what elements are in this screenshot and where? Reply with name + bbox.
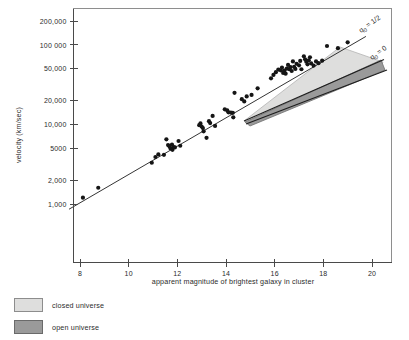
data-point [291,59,295,63]
data-point [256,86,260,90]
y-axis-ticks: 1,0002,000500010,00020,00050,000100 0002… [40,18,78,208]
hubble-diagram-figure: 1,0002,000500010,00020,00050,000100 0002… [0,0,409,340]
x-axis-tick-label: 12 [173,270,181,277]
x-axis-tick-label: 10 [125,270,133,277]
x-axis-tick-label: 18 [319,270,327,277]
y-axis-tick-label: 5000 [50,145,66,152]
data-point [316,61,320,65]
data-point [150,161,154,165]
data-point [269,76,273,80]
data-point [156,152,160,156]
data-point [305,62,309,66]
data-point [213,124,217,128]
model-bands [244,47,385,126]
data-point [232,91,236,95]
y-axis-tick-label: 50,000 [44,65,67,72]
data-point [208,121,212,125]
plot-frame [74,9,392,263]
y-axis-label: velocity (km/sec) [14,107,23,163]
data-point [298,59,302,63]
y-axis-tick-label: 200,000 [40,18,67,25]
legend-swatch-closed-universe [15,299,43,312]
x-axis-tick-label: 8 [78,270,82,277]
data-point [211,114,215,118]
legend-label-open-universe: open universe [52,323,99,332]
y-axis-tick-label: 100 000 [40,42,67,49]
closed-universe-band [244,47,383,124]
data-point [249,93,253,97]
data-point [231,115,235,119]
y-axis-tick-label: 20,000 [44,97,67,104]
data-point [325,44,329,48]
data-point [178,144,182,148]
svg-text:q0 = 0: q0 = 0 [368,44,388,62]
data-point [81,196,85,200]
y-axis-tick-label: 2,000 [48,177,67,184]
legend-label-closed-universe: closed universe [52,301,104,310]
data-point [164,137,168,141]
q0-zero-value: = 0 [374,44,388,57]
data-point [297,63,301,67]
data-point [346,40,350,44]
data-point [245,94,249,98]
legend: closed universe open universe [15,299,105,334]
y-axis-tick-label: 10,000 [44,121,67,128]
axes [74,9,392,263]
data-point [288,65,292,69]
data-point [176,139,180,143]
x-axis-tick-label: 14 [222,270,230,277]
data-point [293,67,297,71]
q0-half-annotation: q0 = 1/2 [357,14,382,36]
x-axis-tick-label: 16 [271,270,279,277]
data-point [242,99,246,103]
data-point [173,145,177,149]
y-axis-tick-label: 1,000 [48,201,67,208]
data-point [162,153,166,157]
data-point [320,59,324,63]
data-point [231,111,235,115]
data-point [96,186,100,190]
x-axis-tick-label: 20 [368,270,376,277]
data-point [299,67,303,71]
data-point [204,136,208,140]
data-point [284,72,288,76]
data-point [290,69,294,73]
data-point [202,129,206,133]
q0-zero-annotation: q0 = 0 [368,44,388,62]
svg-text:q0 = 1/2: q0 = 1/2 [357,14,382,36]
x-axis-ticks: 8101214161820 [78,259,376,277]
x-axis-label: apparent magnitude of brightest galaxy i… [152,277,315,286]
data-point [308,55,312,59]
q0-half-value: = 1/2 [363,14,382,30]
data-point [336,46,340,50]
data-point [312,63,316,67]
scatter-points-layer [81,40,350,200]
legend-swatch-open-universe [15,321,43,334]
